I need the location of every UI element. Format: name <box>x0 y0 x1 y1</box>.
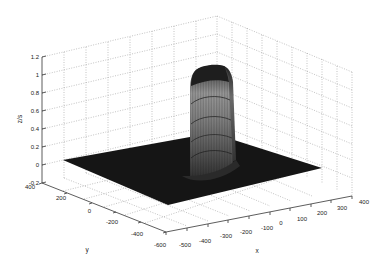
z-tick-label: 0.2 <box>31 144 40 150</box>
z-tick-label: 0.6 <box>31 108 40 114</box>
z-tick-label: 0.4 <box>31 126 40 132</box>
x-tick-label: 0 <box>279 220 283 226</box>
x-tick-label: -400 <box>199 238 212 244</box>
y-tick-label: 400 <box>25 184 36 190</box>
z-tick-label: 0 <box>36 162 40 168</box>
surface <box>63 65 322 205</box>
y-tick-label: -600 <box>154 242 167 248</box>
x-axis: -500 -400 -300 -200 -100 0 100 200 300 4… <box>166 196 370 254</box>
y-tick-label: -400 <box>131 231 144 237</box>
surface-pulse <box>182 65 240 181</box>
x-tick-label: 100 <box>297 216 308 222</box>
z-tick-label: 0.8 <box>31 90 40 96</box>
z-axis: 1.2 1 0.8 0.6 0.4 0.2 0 -0.2 z/s <box>16 54 46 186</box>
x-tick-label: -300 <box>220 233 233 239</box>
x-axis-label: x <box>255 247 259 254</box>
z-tick-marks <box>42 56 46 183</box>
z-tick-label: 1 <box>36 72 40 78</box>
y-tick-label: 200 <box>56 195 67 201</box>
z-tick-label: 1.2 <box>31 54 40 60</box>
x-tick-label: 400 <box>359 199 370 205</box>
z-axis-label: z/s <box>16 114 23 123</box>
x-tick-label: -500 <box>179 242 192 248</box>
x-tick-label: -200 <box>240 229 253 235</box>
y-tick-label: -200 <box>106 219 119 225</box>
y-tick-label: 0 <box>88 208 92 214</box>
surface-plot: 1.2 1 0.8 0.6 0.4 0.2 0 -0.2 z/s 400 200… <box>0 0 386 268</box>
x-tick-label: -100 <box>261 225 274 231</box>
x-tick-label: 300 <box>337 205 348 211</box>
y-axis-label: y <box>85 246 89 254</box>
x-tick-label: 200 <box>317 210 328 216</box>
